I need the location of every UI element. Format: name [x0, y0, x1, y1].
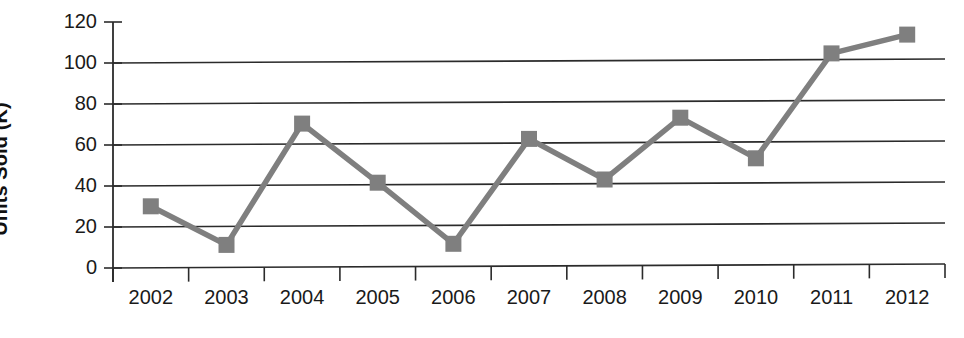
gridline	[113, 264, 945, 268]
x-tick-label: 2008	[582, 286, 627, 308]
x-axis-tick-labels: 2002200320042005200620072008200920102011…	[129, 286, 930, 308]
gridline	[113, 59, 945, 63]
y-tick-label: 120	[64, 10, 97, 32]
x-tick-label: 2011	[810, 286, 853, 308]
data-point-marker	[143, 198, 159, 214]
data-point-marker	[370, 175, 386, 191]
x-tick-label: 2010	[734, 286, 779, 308]
gridlines	[113, 59, 945, 268]
x-tick-label: 2005	[355, 286, 400, 308]
y-tick-label: 60	[75, 133, 97, 155]
data-point-marker	[445, 236, 461, 252]
data-point-marker	[899, 27, 915, 43]
gridline	[113, 182, 945, 186]
x-tick-label: 2007	[507, 286, 552, 308]
data-point-marker	[597, 172, 613, 188]
y-tick-label: 40	[75, 174, 97, 196]
x-tick-label: 2006	[431, 286, 476, 308]
data-point-marker	[748, 150, 764, 166]
x-tick-label: 2009	[658, 286, 703, 308]
y-tick-label: 80	[75, 92, 97, 114]
x-tick-label: 2003	[204, 286, 249, 308]
data-point-marker	[824, 45, 840, 61]
x-tick-label: 2002	[129, 286, 174, 308]
gridline	[113, 100, 945, 104]
data-point-marker	[219, 237, 235, 253]
x-tick-label: 2012	[885, 286, 930, 308]
data-point-marker	[521, 131, 537, 147]
line-chart: Units Sold (K) 020406080100120 200220032…	[0, 0, 964, 338]
data-point-marker	[294, 116, 310, 132]
y-tick-label: 0	[86, 256, 97, 278]
data-point-marker	[672, 110, 688, 126]
y-tick-label: 20	[75, 215, 97, 237]
chart-plot-area: 020406080100120 200220032004200520062007…	[0, 0, 964, 338]
x-tick-label: 2004	[280, 286, 325, 308]
y-axis-tick-labels: 020406080100120	[64, 10, 97, 278]
y-tick-label: 100	[64, 51, 97, 73]
